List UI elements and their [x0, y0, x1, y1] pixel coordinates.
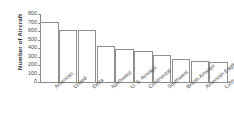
bar-chart: Number of Aircraft 010020030040050060070…	[0, 0, 234, 128]
y-tick-label: 700	[28, 20, 40, 25]
y-tick-label: 200	[28, 62, 40, 67]
y-tick-label: 0	[34, 79, 40, 84]
y-tick-label: 100	[28, 71, 40, 76]
y-tick-label: 500	[28, 37, 40, 42]
y-tick-label: 400	[28, 45, 40, 50]
y-tick-label: 800	[28, 11, 40, 16]
y-tick-label: 600	[28, 28, 40, 33]
y-axis-title: Number of Aircraft	[13, 2, 27, 82]
bar	[40, 22, 58, 82]
y-tick-label: 300	[28, 54, 40, 59]
bar	[78, 30, 96, 82]
